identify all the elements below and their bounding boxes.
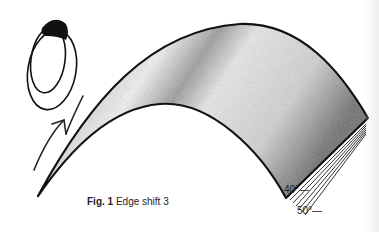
edge-shift-illustration (0, 0, 379, 232)
caption-label: Fig. 1 (87, 196, 113, 207)
page-edge-shadow (365, 0, 379, 232)
figure-caption: Fig. 1 Edge shift 3 (87, 196, 169, 207)
eye-ellipse-icon (21, 20, 82, 114)
caption-text: Edge shift 3 (116, 196, 169, 207)
angle-label-40: 40°— (284, 184, 309, 195)
angle-label-50: 50°— (297, 205, 322, 216)
